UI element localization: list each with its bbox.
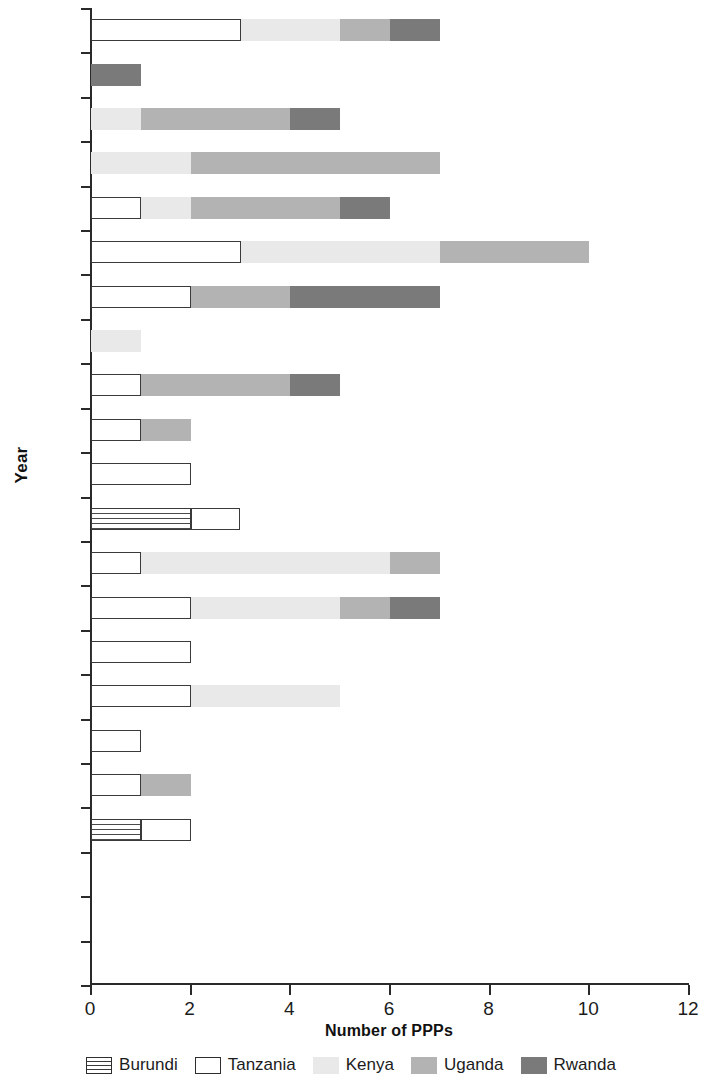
x-axis-tick xyxy=(389,985,391,995)
y-axis-tick xyxy=(81,186,90,188)
bar-segment-1997-tanzania xyxy=(91,641,191,663)
bar-segment-2005-rwanda xyxy=(290,286,440,308)
x-axis-label-8: 8 xyxy=(459,998,519,1020)
y-axis-tick xyxy=(81,497,90,499)
legend-label-uganda: Uganda xyxy=(444,1055,504,1075)
bar-segment-2004-kenya xyxy=(91,330,141,352)
bar-segment-2011-uganda xyxy=(340,19,390,41)
x-axis-tick xyxy=(190,985,192,995)
bar-segment-1998-rwanda xyxy=(390,597,440,619)
bar-segment-1998-tanzania xyxy=(91,597,191,619)
y-axis-tick xyxy=(81,230,90,232)
bar-segment-2000-burundi xyxy=(91,508,191,530)
bar-segment-2009-uganda xyxy=(141,108,291,130)
legend-item-burundi: Burundi xyxy=(86,1055,178,1075)
x-axis-tick xyxy=(90,985,92,995)
bar-segment-2005-tanzania xyxy=(91,286,191,308)
rwanda-swatch xyxy=(521,1057,547,1074)
legend-item-uganda: Uganda xyxy=(411,1055,504,1075)
legend-item-rwanda: Rwanda xyxy=(521,1055,616,1075)
y-axis-tick xyxy=(81,319,90,321)
x-axis-tick xyxy=(588,985,590,995)
bar-segment-2006-kenya xyxy=(241,241,440,263)
y-axis-tick xyxy=(81,363,90,365)
y-axis-tick xyxy=(81,141,90,143)
y-axis-tick xyxy=(81,97,90,99)
bar-segment-2011-rwanda xyxy=(390,19,440,41)
y-axis-tick xyxy=(81,408,90,410)
bar-segment-1995-tanzania xyxy=(91,730,141,752)
x-axis-tick xyxy=(688,985,690,995)
bar-segment-1996-kenya xyxy=(191,685,341,707)
x-axis-label-12: 12 xyxy=(658,998,702,1020)
x-axis-label-10: 10 xyxy=(558,998,618,1020)
chart-legend: BurundiTanzaniaKenyaUgandaRwanda xyxy=(0,1055,702,1075)
x-axis-label-6: 6 xyxy=(359,998,419,1020)
bar-segment-1993-burundi xyxy=(91,819,141,841)
bar-segment-2006-uganda xyxy=(440,241,590,263)
legend-label-tanzania: Tanzania xyxy=(228,1055,296,1075)
y-axis-tick xyxy=(81,274,90,276)
bar-segment-2007-kenya xyxy=(141,197,191,219)
x-axis-label-2: 2 xyxy=(160,998,220,1020)
y-axis-tick xyxy=(81,52,90,54)
y-axis-tick xyxy=(81,985,90,987)
y-axis-tick xyxy=(81,896,90,898)
legend-label-kenya: Kenya xyxy=(346,1055,394,1075)
bar-segment-1994-tanzania xyxy=(91,774,141,796)
y-axis-tick xyxy=(81,674,90,676)
x-axis-tick xyxy=(489,985,491,995)
bar-segment-1999-kenya xyxy=(141,552,390,574)
bar-segment-2011-tanzania xyxy=(91,19,241,41)
bar-segment-2001-tanzania xyxy=(91,463,191,485)
bar-segment-2007-rwanda xyxy=(340,197,390,219)
x-axis-title: Number of PPPs xyxy=(90,1022,688,1040)
bar-segment-1993-tanzania xyxy=(141,819,191,841)
bar-segment-1996-tanzania xyxy=(91,685,191,707)
ppp-stacked-bar-chart: Year 20112010200920082007200620052004200… xyxy=(0,0,702,1089)
x-axis-label-0: 0 xyxy=(60,998,120,1020)
legend-item-tanzania: Tanzania xyxy=(195,1055,296,1075)
bar-segment-1999-uganda xyxy=(390,552,440,574)
bar-segment-2002-tanzania xyxy=(91,419,141,441)
bar-segment-2007-tanzania xyxy=(91,197,141,219)
y-axis-tick xyxy=(81,8,90,10)
y-axis-tick xyxy=(81,941,90,943)
bar-segment-2006-tanzania xyxy=(91,241,241,263)
bar-segment-2010-rwanda xyxy=(91,64,141,86)
bar-segment-1994-uganda xyxy=(141,774,191,796)
y-axis-tick xyxy=(81,719,90,721)
legend-label-burundi: Burundi xyxy=(119,1055,178,1075)
plot-area: 2011201020092008200720062005200420032002… xyxy=(90,8,688,985)
x-axis-label-4: 4 xyxy=(259,998,319,1020)
kenya-swatch xyxy=(313,1057,339,1074)
legend-item-kenya: Kenya xyxy=(313,1055,394,1075)
bar-segment-2008-uganda xyxy=(191,152,440,174)
bar-segment-1998-uganda xyxy=(340,597,390,619)
bar-segment-2005-uganda xyxy=(191,286,291,308)
bar-segment-2007-uganda xyxy=(191,197,341,219)
uganda-swatch xyxy=(411,1057,437,1074)
bar-segment-1999-tanzania xyxy=(91,552,141,574)
bar-segment-2009-rwanda xyxy=(290,108,340,130)
tanzania-swatch xyxy=(195,1057,221,1074)
y-axis-tick xyxy=(81,807,90,809)
y-axis-tick xyxy=(81,852,90,854)
bar-segment-2000-tanzania xyxy=(191,508,241,530)
y-axis-tick xyxy=(81,763,90,765)
y-axis-tick xyxy=(81,541,90,543)
y-axis-tick xyxy=(81,630,90,632)
bar-segment-1998-kenya xyxy=(191,597,341,619)
x-axis-tick xyxy=(289,985,291,995)
bar-segment-2002-uganda xyxy=(141,419,191,441)
bar-segment-2009-kenya xyxy=(91,108,141,130)
legend-label-rwanda: Rwanda xyxy=(554,1055,616,1075)
bar-segment-2008-kenya xyxy=(91,152,191,174)
bar-segment-2003-tanzania xyxy=(91,374,141,396)
y-axis-title: Year xyxy=(12,425,32,505)
burundi-swatch xyxy=(86,1057,112,1074)
y-axis-tick xyxy=(81,585,90,587)
bar-segment-2003-uganda xyxy=(141,374,291,396)
bar-segment-2003-rwanda xyxy=(290,374,340,396)
bar-segment-2011-kenya xyxy=(241,19,341,41)
